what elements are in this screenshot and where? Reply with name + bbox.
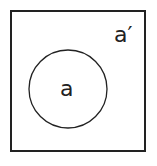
venn-diagram-svg bbox=[0, 0, 157, 166]
complement-label: a′ bbox=[114, 24, 132, 46]
venn-diagram: a a′ bbox=[0, 0, 157, 166]
set-a-label: a bbox=[60, 78, 73, 100]
